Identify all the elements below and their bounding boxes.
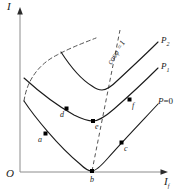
marker-d [65, 107, 69, 111]
marker-a [44, 132, 48, 136]
y-axis-arrowhead [17, 7, 23, 15]
marker-c [120, 141, 124, 145]
curve-label-p0-rest: =0 [164, 96, 174, 106]
curve-p0 [24, 101, 158, 171]
curve-label-p1: P1 [161, 62, 170, 73]
marker-f [128, 98, 132, 102]
curve-label-p2-subscript: 2 [167, 41, 170, 47]
curve-label-p1-subscript: 1 [167, 67, 170, 73]
curve-label-p0: P=0 [158, 97, 173, 106]
chart-canvas [0, 0, 183, 195]
y-axis-label: I [7, 1, 11, 12]
point-label-f: f [132, 102, 134, 110]
x-axis-label: If [164, 176, 169, 189]
curve-p1 [24, 68, 158, 121]
v-curves-figure: I If O P2 P1 P=0 cosφ =1 a b c d e f [0, 0, 183, 195]
point-label-e: e [95, 123, 99, 131]
minimum-current-locus-arc [24, 38, 96, 101]
point-label-c: c [124, 145, 128, 153]
point-label-d: d [60, 111, 64, 119]
point-label-b: b [90, 176, 94, 184]
x-axis-label-subscript: f [168, 183, 170, 189]
point-label-a: a [38, 136, 42, 144]
origin-label: O [6, 168, 14, 179]
x-axis-arrowhead [161, 169, 169, 175]
marker-group [44, 98, 132, 174]
marker-b [90, 169, 94, 173]
curve-label-p2: P2 [161, 36, 170, 47]
